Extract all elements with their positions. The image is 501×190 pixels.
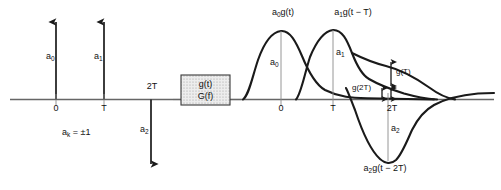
output-pulse-a2-label: a2g(t − 2T) <box>364 164 407 175</box>
impulse-a2-label: a2 <box>140 125 149 136</box>
input-axis-label-T: T <box>101 104 107 113</box>
output-pulse-a0-label-tail: g(t) <box>281 7 295 17</box>
amplitude-note: ak = ±1 <box>62 128 90 139</box>
input-axis-label-2T: 2T <box>147 82 158 91</box>
isi-label-g2T: g(2T) <box>352 84 371 92</box>
output-pulse-a1-label-tail: g(t − T) <box>343 7 372 17</box>
impulse-a0-label-sub: 0 <box>51 55 55 62</box>
impulse-a1-label: a1 <box>94 52 103 63</box>
impulse-a0-label: a0 <box>46 52 55 63</box>
output-pulse-a0-label: a0g(t) <box>272 8 294 19</box>
output-axis-label-2T: 2T <box>387 104 398 113</box>
amplitude-note-tail: = ±1 <box>70 127 90 137</box>
filter-block-label-gt: g(t) <box>199 80 213 89</box>
output-amp-a2-sub: 2 <box>396 127 400 134</box>
impulse-a1-label-sub: 1 <box>99 55 103 62</box>
output-amp-a1-sub: 1 <box>341 51 345 58</box>
isi-label-gT: g(T) <box>396 68 411 76</box>
output-axis-label-T: T <box>330 104 336 113</box>
output-amp-a0-label: a0 <box>270 58 279 69</box>
isi-figure: 0 T 2T a0 a1 a2 ak = ±1 g(t) G(f) 0 T 2T… <box>0 0 501 190</box>
impulse-a2-label-sub: 2 <box>145 128 149 135</box>
output-pulse-a2-label-tail: g(t − 2T) <box>372 163 406 173</box>
input-axis-label-0: 0 <box>53 104 58 113</box>
filter-block-label-Gf: G(f) <box>198 92 214 101</box>
output-amp-a0-sub: 0 <box>275 61 279 68</box>
output-amp-a1-label: a1 <box>336 48 345 59</box>
output-axis-label-0: 0 <box>278 104 283 113</box>
output-amp-a2-label: a2 <box>391 124 400 135</box>
output-pulse-a1-label: a1g(t − T) <box>334 8 372 19</box>
figure-canvas <box>0 0 501 190</box>
